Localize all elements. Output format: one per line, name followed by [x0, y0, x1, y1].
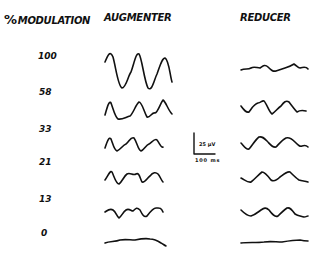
- reducer-trace-58: [241, 101, 306, 114]
- scale-voltage-label: 25 µV: [199, 141, 215, 147]
- reducer-trace-33: [241, 137, 308, 149]
- scale-time-label: 100 ms: [195, 157, 220, 163]
- augmenter-trace-0: [105, 239, 166, 246]
- reducer-trace-100: [241, 64, 308, 71]
- reducer-trace-0: [241, 240, 308, 243]
- augmenter-trace-13: [105, 208, 163, 218]
- augmenter-trace-21: [105, 172, 163, 184]
- reducer-trace-13: [241, 208, 308, 217]
- waveform-traces: [0, 0, 322, 254]
- augmenter-trace-58: [105, 100, 172, 119]
- augmenter-trace-33: [105, 138, 163, 151]
- reducer-trace-21: [241, 172, 308, 182]
- augmenter-trace-100: [105, 54, 172, 89]
